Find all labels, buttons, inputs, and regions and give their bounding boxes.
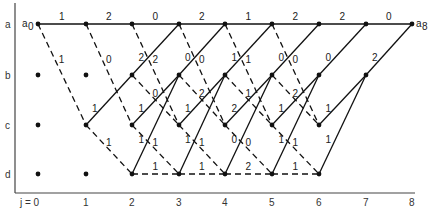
edges: [38, 24, 412, 174]
node-d0: [36, 172, 41, 177]
node-b7: [364, 73, 369, 78]
edge-label: 2: [199, 88, 205, 99]
edge-label: 2: [372, 52, 378, 63]
node-c0: [36, 123, 41, 128]
edge-label: 0: [185, 52, 191, 63]
stage-label-4: 4: [222, 197, 228, 208]
edge-label: 1: [278, 134, 284, 145]
edge-label: 1: [59, 11, 65, 22]
node-b2: [130, 73, 135, 78]
edge-label: 1: [152, 137, 158, 148]
edge-a0-c1: [38, 24, 86, 125]
node-a6: [317, 22, 322, 27]
edge-b5-a6: [272, 24, 319, 75]
node-b0: [36, 73, 41, 78]
edge-label: 2: [292, 88, 298, 99]
state-label-a: a: [5, 19, 11, 30]
node-c2: [130, 123, 135, 128]
edge-b6-a7: [319, 24, 366, 75]
edge-label: 1: [325, 134, 331, 145]
edge-b2-a3: [132, 24, 179, 75]
node-b3: [177, 73, 182, 78]
stage-label-2: 2: [129, 197, 135, 208]
stage-label-7: 7: [363, 197, 369, 208]
edge-label: 1: [231, 52, 237, 63]
edge-label: 1: [153, 161, 159, 172]
edge-label: 2: [293, 11, 299, 22]
edge-c1-d2: [86, 125, 132, 174]
edge-c1-b2: [86, 75, 132, 125]
edge-label: 0: [278, 52, 284, 63]
edge-label: 0: [292, 54, 298, 65]
node-a8: [410, 22, 415, 27]
edge-labels: 1120110220111120021111111120022002111120…: [59, 11, 392, 172]
edge-label: 1: [245, 88, 251, 99]
edge-label: 1: [292, 137, 298, 148]
stage-label-8: 8: [409, 197, 415, 208]
stage-label-1: 1: [83, 197, 89, 208]
edge-label: 1: [245, 54, 251, 65]
edge-label: 2: [246, 161, 252, 172]
edge-label: 1: [92, 103, 98, 114]
node-d6: [317, 172, 322, 177]
node-a4: [223, 22, 228, 27]
stage-label-6: 6: [316, 197, 322, 208]
edge-label: 0: [199, 54, 205, 65]
stage-label-0: j = 0: [19, 197, 40, 208]
edge-label: 1: [325, 103, 331, 114]
edge-label: 0: [106, 54, 112, 65]
edge-label: 1: [246, 11, 252, 22]
node-b1: [84, 73, 89, 78]
edge-d6-b7: [319, 75, 366, 174]
state-label-d: d: [5, 169, 11, 180]
node-d4: [223, 172, 228, 177]
end-state-subscript: 8: [422, 21, 428, 32]
edge-label: 1: [185, 134, 191, 145]
state-labels: abcd: [5, 19, 11, 180]
node-c1: [84, 123, 89, 128]
node-b6: [317, 73, 322, 78]
edge-label: 1: [293, 161, 299, 172]
edge-c6-b7: [319, 75, 366, 125]
edge-b3-a4: [179, 24, 225, 75]
edge-label: 0: [231, 134, 237, 145]
node-a0: [36, 22, 41, 27]
edge-label: 2: [106, 11, 112, 22]
node-a5: [270, 22, 275, 27]
node-b4: [223, 73, 228, 78]
node-a1: [84, 22, 89, 27]
start-state-subscript: 0: [28, 21, 34, 32]
node-a3: [177, 22, 182, 27]
edge-label: 2: [152, 54, 158, 65]
stage-labels: j = 012345678: [19, 197, 415, 208]
node-d3: [177, 172, 182, 177]
edge-label: 1: [138, 103, 144, 114]
node-c3: [177, 123, 182, 128]
stage-label-5: 5: [269, 197, 275, 208]
edge-b7-a8: [366, 24, 412, 75]
edge-label: 1: [106, 137, 112, 148]
node-b5: [270, 73, 275, 78]
edge-label: 1: [199, 137, 205, 148]
edge-label: 2: [199, 11, 205, 22]
edge-label: 0: [153, 11, 159, 22]
edge-label: 0: [325, 52, 331, 63]
edge-label: 1: [59, 54, 65, 65]
edge-label: 2: [340, 11, 346, 22]
node-a7: [364, 22, 369, 27]
node-c6: [317, 123, 322, 128]
node-d1: [84, 172, 89, 177]
trellis-canvas: abcd j = 012345678 112011022011112002111…: [0, 0, 435, 211]
edge-label: 1: [278, 103, 284, 114]
node-a2: [130, 22, 135, 27]
edge-label: 1: [185, 103, 191, 114]
edge-label: 1: [138, 134, 144, 145]
node-c5: [270, 123, 275, 128]
stage-label-3: 3: [176, 197, 182, 208]
edge-label: 0: [386, 11, 392, 22]
nodes: [36, 22, 415, 177]
node-c4: [223, 123, 228, 128]
trellis-diagram: abcd j = 012345678 112011022011112002111…: [0, 0, 435, 211]
edge-b4-a5: [225, 24, 272, 75]
edge-label: 2: [231, 103, 237, 114]
